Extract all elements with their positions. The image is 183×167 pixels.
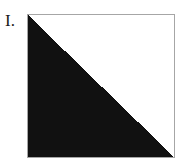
triangle-diagram — [28, 15, 174, 157]
figure-label: I. — [5, 10, 27, 32]
figure-plate — [27, 14, 175, 158]
figure-container: I. — [0, 0, 183, 167]
